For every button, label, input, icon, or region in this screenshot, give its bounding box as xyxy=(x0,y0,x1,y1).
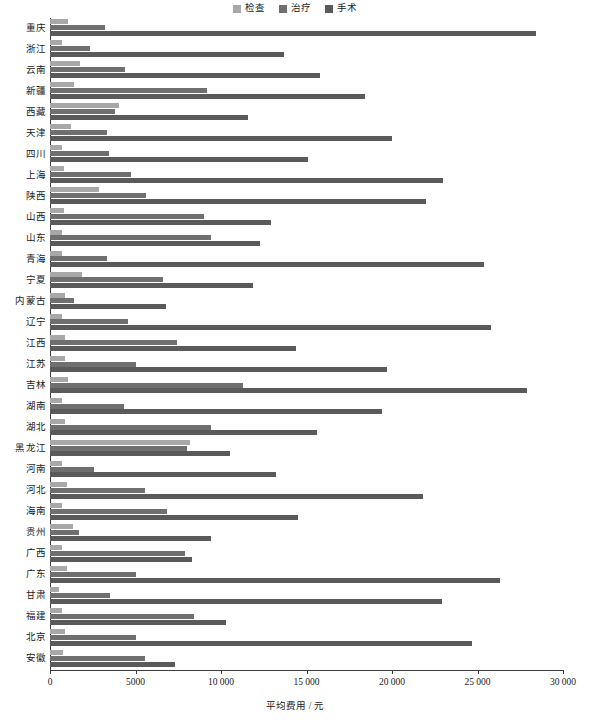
bar-检查[interactable] xyxy=(50,419,65,424)
bar-手术[interactable] xyxy=(50,94,365,99)
bar-检查[interactable] xyxy=(50,166,64,171)
bar-治疗[interactable] xyxy=(50,340,177,345)
bar-检查[interactable] xyxy=(50,251,62,256)
bar-检查[interactable] xyxy=(50,314,62,319)
bar-手术[interactable] xyxy=(50,620,226,625)
bar-手术[interactable] xyxy=(50,599,442,604)
bar-手术[interactable] xyxy=(50,52,284,57)
bar-治疗[interactable] xyxy=(50,404,124,409)
bar-检查[interactable] xyxy=(50,272,82,277)
bar-治疗[interactable] xyxy=(50,109,115,114)
bar-治疗[interactable] xyxy=(50,656,145,661)
bar-手术[interactable] xyxy=(50,283,253,288)
bar-检查[interactable] xyxy=(50,124,71,129)
bar-手术[interactable] xyxy=(50,388,527,393)
legend-item-手术[interactable]: 手术 xyxy=(325,4,357,14)
bar-手术[interactable] xyxy=(50,451,230,456)
legend-item-检查[interactable]: 检查 xyxy=(233,4,265,14)
bar-手术[interactable] xyxy=(50,73,320,78)
bar-治疗[interactable] xyxy=(50,214,204,219)
bar-治疗[interactable] xyxy=(50,467,94,472)
bar-检查[interactable] xyxy=(50,629,65,634)
y-tick-label: 浙江 xyxy=(0,45,46,55)
bar-手术[interactable] xyxy=(50,346,296,351)
bar-治疗[interactable] xyxy=(50,46,90,51)
bar-手术[interactable] xyxy=(50,536,211,541)
bar-治疗[interactable] xyxy=(50,530,79,535)
bar-检查[interactable] xyxy=(50,545,62,550)
bar-检查[interactable] xyxy=(50,461,62,466)
bar-治疗[interactable] xyxy=(50,172,131,177)
bar-手术[interactable] xyxy=(50,557,192,562)
bar-治疗[interactable] xyxy=(50,319,128,324)
bar-手术[interactable] xyxy=(50,662,175,667)
bar-治疗[interactable] xyxy=(50,88,207,93)
bar-手术[interactable] xyxy=(50,494,423,499)
bar-检查[interactable] xyxy=(50,293,65,298)
bar-检查[interactable] xyxy=(50,356,65,361)
bar-手术[interactable] xyxy=(50,31,536,36)
bar-手术[interactable] xyxy=(50,472,276,477)
bar-治疗[interactable] xyxy=(50,509,167,514)
bar-治疗[interactable] xyxy=(50,635,136,640)
bar-检查[interactable] xyxy=(50,566,67,571)
bar-group xyxy=(50,565,563,586)
y-tick-label: 内蒙古 xyxy=(0,297,46,307)
bar-检查[interactable] xyxy=(50,145,62,150)
bar-手术[interactable] xyxy=(50,157,308,162)
bar-治疗[interactable] xyxy=(50,488,145,493)
bar-治疗[interactable] xyxy=(50,277,163,282)
bar-检查[interactable] xyxy=(50,398,62,403)
bar-治疗[interactable] xyxy=(50,25,105,30)
bar-治疗[interactable] xyxy=(50,298,74,303)
bar-治疗[interactable] xyxy=(50,362,136,367)
bar-治疗[interactable] xyxy=(50,551,185,556)
bar-检查[interactable] xyxy=(50,187,99,192)
bar-检查[interactable] xyxy=(50,19,68,24)
bar-检查[interactable] xyxy=(50,335,65,340)
bar-手术[interactable] xyxy=(50,578,500,583)
bar-治疗[interactable] xyxy=(50,593,110,598)
bar-手术[interactable] xyxy=(50,241,260,246)
legend-item-治疗[interactable]: 治疗 xyxy=(279,4,311,14)
y-tick-label: 云南 xyxy=(0,66,46,76)
bar-检查[interactable] xyxy=(50,230,62,235)
bar-手术[interactable] xyxy=(50,641,472,646)
bar-治疗[interactable] xyxy=(50,446,187,451)
bar-手术[interactable] xyxy=(50,430,317,435)
bar-检查[interactable] xyxy=(50,608,62,613)
bar-检查[interactable] xyxy=(50,503,62,508)
bar-检查[interactable] xyxy=(50,377,68,382)
bar-检查[interactable] xyxy=(50,524,73,529)
bar-治疗[interactable] xyxy=(50,151,109,156)
bar-手术[interactable] xyxy=(50,115,248,120)
bar-治疗[interactable] xyxy=(50,572,136,577)
bar-治疗[interactable] xyxy=(50,614,194,619)
bar-手术[interactable] xyxy=(50,304,166,309)
bar-检查[interactable] xyxy=(50,650,63,655)
bar-检查[interactable] xyxy=(50,103,119,108)
bar-检查[interactable] xyxy=(50,440,190,445)
bar-治疗[interactable] xyxy=(50,193,146,198)
bar-检查[interactable] xyxy=(50,40,62,45)
bar-检查[interactable] xyxy=(50,82,74,87)
bar-手术[interactable] xyxy=(50,178,443,183)
bar-治疗[interactable] xyxy=(50,256,107,261)
bar-治疗[interactable] xyxy=(50,425,211,430)
bar-治疗[interactable] xyxy=(50,235,211,240)
bar-检查[interactable] xyxy=(50,208,64,213)
bar-手术[interactable] xyxy=(50,515,298,520)
bar-手术[interactable] xyxy=(50,262,484,267)
bar-手术[interactable] xyxy=(50,367,387,372)
bar-检查[interactable] xyxy=(50,587,59,592)
bar-治疗[interactable] xyxy=(50,67,125,72)
bar-手术[interactable] xyxy=(50,220,271,225)
bar-手术[interactable] xyxy=(50,136,392,141)
bar-治疗[interactable] xyxy=(50,383,243,388)
bar-检查[interactable] xyxy=(50,482,67,487)
bar-手术[interactable] xyxy=(50,325,491,330)
bar-检查[interactable] xyxy=(50,61,80,66)
bar-手术[interactable] xyxy=(50,409,382,414)
bar-手术[interactable] xyxy=(50,199,426,204)
bar-治疗[interactable] xyxy=(50,130,107,135)
